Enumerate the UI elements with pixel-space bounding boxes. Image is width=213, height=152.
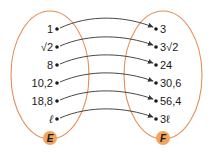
element-dot <box>154 27 158 31</box>
codomain-element-label: 30,6 <box>160 77 181 89</box>
domain-element-label: 8 <box>47 59 53 71</box>
set-e-name: E <box>47 133 54 144</box>
mapping-arrow <box>60 55 153 64</box>
set-e-badge: E <box>43 131 57 145</box>
element-dot <box>55 27 59 31</box>
element-dot <box>55 45 59 49</box>
mapping-arrows <box>60 18 153 118</box>
domain-element-label: √2 <box>41 41 53 53</box>
codomain-dots <box>154 27 158 121</box>
set-f-name: F <box>160 133 167 144</box>
element-dot <box>154 99 158 103</box>
codomain-element-label: 3ℓ <box>160 113 170 125</box>
element-dot <box>55 63 59 67</box>
element-dot <box>154 45 158 49</box>
element-dot <box>154 81 158 85</box>
element-dot <box>154 63 158 67</box>
mapping-arrow <box>60 73 153 82</box>
mapping-arrow <box>60 18 153 28</box>
mapping-arrow <box>60 109 153 118</box>
domain-element-label: 10,2 <box>32 77 53 89</box>
codomain-element-label: 56,4 <box>160 95 181 107</box>
codomain-element-label: 3 <box>160 23 166 35</box>
mapping-arrow <box>60 37 153 46</box>
function-mapping-diagram: 1 √2 8 10,2 18,8 ℓ 3 3√2 24 30,6 56,4 3ℓ… <box>0 0 213 152</box>
element-dot <box>55 99 59 103</box>
domain-element-label: ℓ <box>48 113 53 125</box>
codomain-labels: 3 3√2 24 30,6 56,4 3ℓ <box>160 23 181 125</box>
codomain-element-label: 24 <box>160 59 172 71</box>
domain-dots <box>55 27 59 121</box>
set-f-badge: F <box>156 131 170 145</box>
element-dot <box>55 81 59 85</box>
mapping-arrow <box>60 91 153 100</box>
domain-labels: 1 √2 8 10,2 18,8 ℓ <box>32 23 54 125</box>
element-dot <box>55 117 59 121</box>
element-dot <box>154 117 158 121</box>
codomain-element-label: 3√2 <box>160 41 178 53</box>
domain-element-label: 18,8 <box>32 95 53 107</box>
domain-element-label: 1 <box>47 23 53 35</box>
